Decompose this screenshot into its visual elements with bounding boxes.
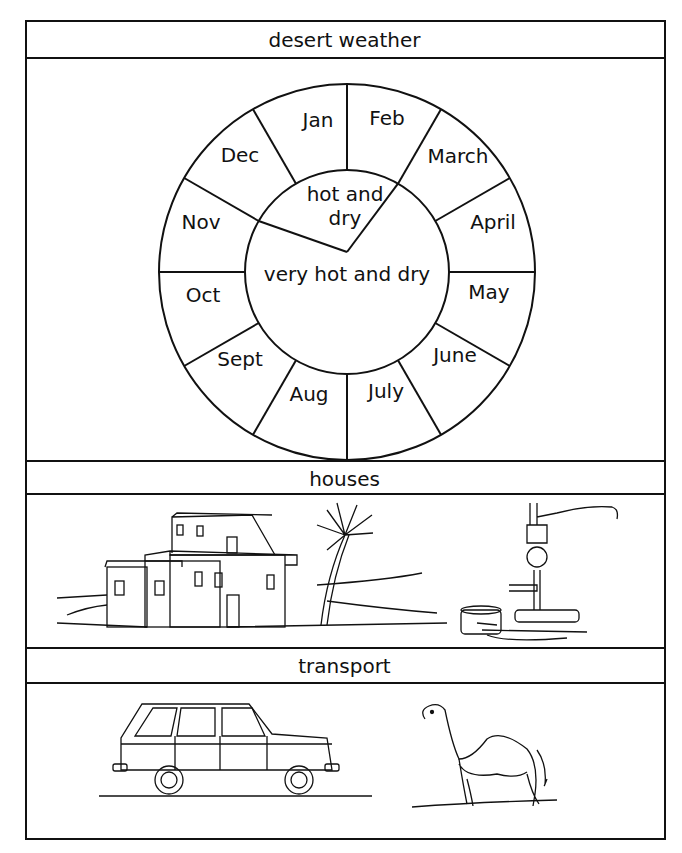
month-april: April (470, 210, 516, 234)
section-title-houses: houses (25, 461, 664, 497)
month-nov: Nov (181, 210, 220, 234)
season-hot-dry-line2: dry (329, 206, 362, 230)
month-march: March (428, 144, 489, 168)
transport-panel (27, 684, 664, 836)
month-june: June (431, 343, 477, 367)
month-oct: Oct (186, 283, 221, 307)
month-feb: Feb (369, 106, 404, 130)
house-illustration (57, 513, 447, 627)
houses-panel (27, 495, 664, 647)
month-jan: Jan (301, 108, 334, 132)
section-title-desert-weather: desert weather (25, 22, 664, 58)
section-title-transport: transport (25, 648, 664, 684)
season-hot-dry-line1: hot and (307, 182, 384, 206)
weather-wheel-panel: Jan Feb March April May June July Aug Se… (27, 59, 664, 461)
month-dec: Dec (221, 143, 260, 167)
weather-wheel: Jan Feb March April May June July Aug Se… (27, 59, 664, 461)
palm-tree-illustration (317, 503, 373, 625)
month-sept: Sept (217, 347, 263, 371)
season-very-hot-dry: very hot and dry (264, 262, 431, 286)
water-pump-illustration (461, 503, 617, 640)
camel-illustration (412, 705, 557, 807)
month-july: July (366, 379, 404, 403)
month-aug: Aug (289, 382, 328, 406)
month-may: May (468, 280, 510, 304)
car-illustration (99, 704, 372, 796)
